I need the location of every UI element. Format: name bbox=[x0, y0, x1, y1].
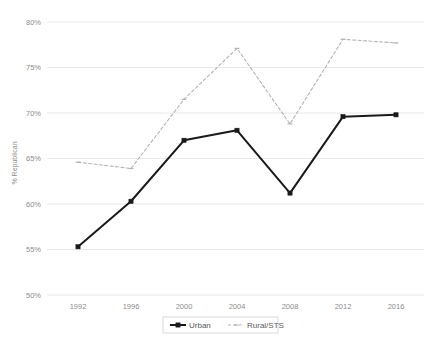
x-tick-label: 2008 bbox=[282, 302, 299, 311]
data-point-marker bbox=[182, 138, 186, 142]
chart-background bbox=[0, 0, 437, 342]
y-tick-label: 70% bbox=[26, 109, 41, 118]
x-tick-label: 2004 bbox=[229, 302, 246, 311]
legend-item-label[interactable]: Urban bbox=[189, 321, 211, 330]
y-tick-label: 60% bbox=[26, 200, 41, 209]
x-tick-label: 1992 bbox=[70, 302, 87, 311]
y-tick-label: 80% bbox=[26, 18, 41, 27]
x-tick-label: 2012 bbox=[335, 302, 352, 311]
y-axis-title: % Republican bbox=[11, 141, 19, 184]
y-tick-label: 55% bbox=[26, 245, 41, 254]
x-tick-label: 2000 bbox=[176, 302, 193, 311]
data-point-marker bbox=[76, 245, 80, 249]
y-tick-label: 50% bbox=[26, 291, 41, 300]
data-point-marker bbox=[341, 115, 345, 119]
y-tick-label: 65% bbox=[26, 154, 41, 163]
data-point-marker bbox=[129, 199, 133, 203]
data-point-marker bbox=[288, 191, 292, 195]
chart-legend: UrbanRural/STS bbox=[163, 317, 284, 333]
legend-item-label[interactable]: Rural/STS bbox=[247, 321, 284, 330]
line-chart: 50%55%60%65%70%75%80% 199219962000200420… bbox=[0, 0, 437, 342]
data-point-marker bbox=[235, 128, 239, 132]
x-tick-label: 1996 bbox=[123, 302, 140, 311]
legend-swatch-marker bbox=[176, 323, 180, 327]
data-point-marker bbox=[394, 113, 398, 117]
x-tick-label: 2016 bbox=[388, 302, 405, 311]
y-tick-label: 75% bbox=[26, 63, 41, 72]
chart-canvas: 50%55%60%65%70%75%80% 199219962000200420… bbox=[0, 0, 437, 342]
